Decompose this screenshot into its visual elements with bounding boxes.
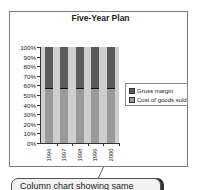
y-axis-tick [37,143,40,144]
x-axis-tick [119,143,120,146]
y-axis-label: 60% [8,82,36,89]
bar-segment-gross-margin [107,47,115,88]
x-axis-tick [57,143,58,146]
x-axis-label: 1996 [46,146,53,164]
legend-swatch-cost-of-goods-sold [129,97,135,103]
bar-segment-gross-margin [45,47,53,88]
segment-divider [45,88,53,89]
x-axis-label: 1998 [77,146,84,164]
callout-text: Column chart showing same [20,181,134,190]
y-axis-label: 90% [8,54,36,61]
legend-item-gross-margin: Gross margin [129,86,173,95]
y-axis-tick [37,114,40,115]
legend-label: Gross margin [137,88,173,94]
x-axis-label: 1997 [61,146,68,164]
y-axis-tick [37,124,40,125]
y-axis-tick [37,57,40,58]
x-axis-tick [88,143,89,146]
bar-segment-gross-margin [60,47,68,88]
chart-title: Five-Year Plan [0,13,201,23]
legend-swatch-gross-margin [129,88,135,94]
bar-2000 [107,47,115,143]
segment-divider [76,88,84,89]
x-axis-label: 2000 [108,146,115,164]
y-axis [40,47,41,143]
bar-1999 [91,47,99,143]
legend-item-cost-of-goods-sold: Cost of goods sold [129,95,187,104]
bar-segment-cost-of-goods-sold [91,88,99,143]
y-axis-tick [37,133,40,134]
legend-label: Cost of goods sold [137,97,187,103]
y-axis-label: 0% [8,140,36,147]
y-axis-tick [37,76,40,77]
y-axis-tick [37,95,40,96]
y-axis-label: 100% [8,44,36,51]
x-axis-tick [72,143,73,146]
segment-divider [107,88,115,89]
x-axis-tick [103,143,104,146]
y-axis-tick [37,47,40,48]
segment-divider [91,88,99,89]
y-axis-label: 10% [8,130,36,137]
x-axis [40,143,119,144]
bar-segment-gross-margin [91,47,99,88]
segment-divider [60,88,68,89]
bar-segment-cost-of-goods-sold [107,88,115,143]
chart-legend: Gross margin Cost of goods sold [125,83,188,106]
y-axis-tick [37,85,40,86]
bar-segment-gross-margin [76,47,84,88]
bar-1998 [76,47,84,143]
bar-segment-cost-of-goods-sold [60,88,68,143]
bar-1997 [60,47,68,143]
y-axis-tick [37,105,40,106]
y-axis-label: 80% [8,63,36,70]
x-axis-label: 1999 [92,146,99,164]
y-axis-label: 30% [8,111,36,118]
y-axis-label: 70% [8,73,36,80]
y-axis-label: 20% [8,121,36,128]
bar-segment-cost-of-goods-sold [76,88,84,143]
y-axis-label: 50% [8,92,36,99]
y-axis-label: 40% [8,102,36,109]
bar-1996 [45,47,53,143]
callout-box: Column chart showing same [11,178,161,190]
bar-segment-cost-of-goods-sold [45,88,53,143]
y-axis-tick [37,66,40,67]
